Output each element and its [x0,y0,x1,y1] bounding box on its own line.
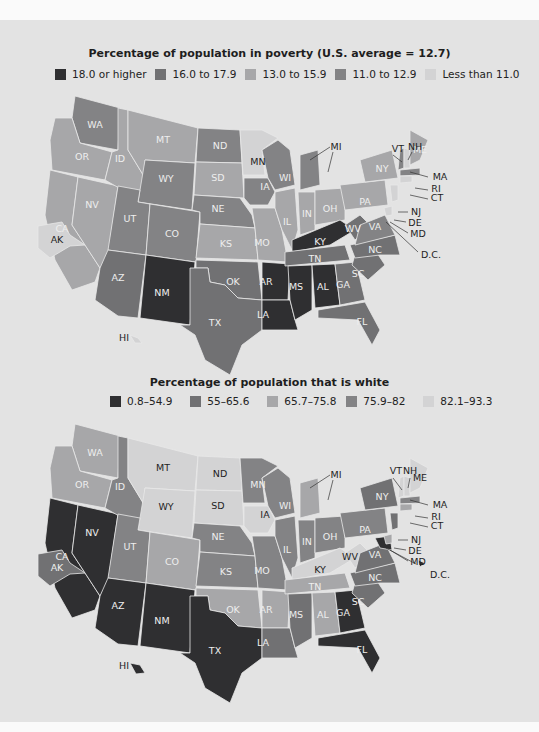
legend-swatch [245,69,256,80]
svg-text:WA: WA [87,447,103,458]
svg-text:OK: OK [226,604,240,615]
svg-text:WY: WY [158,173,173,184]
legend-label: 0.8–54.9 [127,395,172,407]
svg-text:VT: VT [392,143,404,154]
svg-text:OH: OH [323,203,338,214]
svg-text:WV: WV [342,551,358,562]
svg-text:GA: GA [336,607,350,618]
legend-item: 11.0 to 12.9 [335,68,416,80]
legend-label: 18.0 or higher [72,68,146,80]
svg-text:IN: IN [302,208,312,219]
legend-label: 82.1–93.3 [440,395,492,407]
page-bottom-margin [0,722,539,732]
svg-text:ID: ID [115,153,125,164]
svg-text:ND: ND [213,468,227,479]
svg-text:FL: FL [357,316,368,327]
legend-swatch [425,69,436,80]
svg-text:MA: MA [433,171,448,182]
svg-text:IL: IL [283,544,292,555]
svg-text:FL: FL [357,644,368,655]
svg-text:WI: WI [279,500,291,511]
legend-swatch [190,396,201,407]
svg-text:WV: WV [345,223,361,234]
svg-text:CT: CT [431,192,444,203]
svg-text:MO: MO [254,237,270,248]
map2-legend: 0.8–54.9 55–65.6 65.7–75.8 75.9–82 82.1–… [110,395,501,407]
svg-text:OH: OH [323,531,338,542]
svg-text:SD: SD [211,172,224,183]
legend-label: 55–65.6 [207,395,249,407]
legend-swatch [346,396,357,407]
legend-label: 13.0 to 15.9 [262,68,326,80]
svg-text:NC: NC [368,572,382,583]
svg-text:MS: MS [289,609,303,620]
svg-text:CO: CO [165,556,179,567]
legend-label: 75.9–82 [363,395,405,407]
svg-text:AK: AK [51,234,64,245]
svg-text:SC: SC [352,596,365,607]
svg-text:VT: VT [390,465,402,476]
svg-text:CA: CA [55,551,69,562]
svg-text:LA: LA [257,309,270,320]
svg-text:KS: KS [220,238,232,249]
legend-label: 65.7–75.8 [284,395,336,407]
svg-text:VA: VA [369,221,382,232]
legend-item: 0.8–54.9 [110,395,172,407]
svg-text:ID: ID [115,481,125,492]
svg-text:NC: NC [368,244,382,255]
svg-text:TN: TN [308,581,322,592]
svg-text:OR: OR [75,151,89,162]
map1-title: Percentage of population in poverty (U.S… [0,47,539,60]
svg-text:IL: IL [283,216,292,227]
legend-item: 82.1–93.3 [423,395,492,407]
svg-text:NJ: NJ [411,534,421,545]
legend-item: 16.0 to 17.9 [155,68,236,80]
svg-text:VA: VA [369,549,382,560]
svg-text:NY: NY [376,163,389,174]
svg-text:AL: AL [317,609,329,620]
svg-text:GA: GA [336,279,350,290]
svg-text:IN: IN [302,536,312,547]
svg-text:LA: LA [257,637,270,648]
svg-text:NM: NM [154,615,169,626]
svg-text:UT: UT [124,541,137,552]
svg-text:CA: CA [55,223,69,234]
legend-item: 75.9–82 [346,395,405,407]
svg-text:AK: AK [51,562,64,573]
svg-text:NJ: NJ [411,206,421,217]
svg-text:MI: MI [331,141,342,152]
svg-text:AR: AR [259,604,272,615]
svg-text:NY: NY [376,491,389,502]
svg-text:NM: NM [154,287,169,298]
svg-text:KY: KY [314,564,326,575]
svg-text:MI: MI [331,469,342,480]
svg-text:MT: MT [156,134,170,145]
svg-text:NE: NE [211,203,224,214]
svg-text:AZ: AZ [111,600,124,611]
svg-text:MO: MO [254,565,270,576]
svg-text:AL: AL [317,281,329,292]
svg-text:D.C.: D.C. [421,249,441,260]
svg-text:KS: KS [220,566,232,577]
map2-title: Percentage of population that is white [0,376,539,389]
svg-text:OR: OR [75,479,89,490]
svg-text:DE: DE [408,217,421,228]
svg-text:NV: NV [85,527,99,538]
legend-swatch [155,69,166,80]
svg-text:MA: MA [433,499,448,510]
svg-text:MT: MT [156,462,170,473]
legend-swatch [423,396,434,407]
legend-item: 18.0 or higher [55,68,146,80]
svg-text:MN: MN [250,156,265,167]
svg-text:CT: CT [431,520,444,531]
svg-text:NE: NE [211,531,224,542]
legend-swatch [55,69,66,80]
svg-text:IA: IA [260,181,270,192]
svg-text:CO: CO [165,228,179,239]
svg-text:TX: TX [208,317,222,328]
svg-text:AR: AR [259,276,272,287]
svg-text:TN: TN [308,253,322,264]
svg-text:MD: MD [410,556,426,567]
svg-text:KY: KY [314,236,326,247]
svg-text:WI: WI [279,172,291,183]
